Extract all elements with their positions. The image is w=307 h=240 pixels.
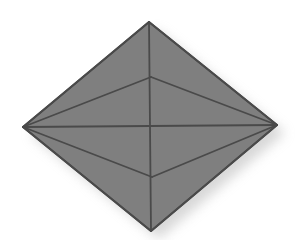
octahedron-diagram [0, 0, 307, 240]
